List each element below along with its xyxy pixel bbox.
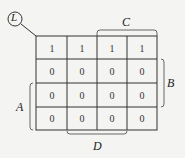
label-d: D xyxy=(93,139,102,154)
cell: 0 xyxy=(127,107,157,130)
corner-label: L xyxy=(11,11,17,23)
cell: 1 xyxy=(97,37,127,60)
cell: 0 xyxy=(67,107,97,130)
cell: 0 xyxy=(97,60,127,83)
cell: 0 xyxy=(37,84,67,107)
cell: 1 xyxy=(67,37,97,60)
cell: 0 xyxy=(127,84,157,107)
cell: 0 xyxy=(37,60,67,83)
cell: 1 xyxy=(127,37,157,60)
label-a: A xyxy=(16,100,23,115)
cell: 1 xyxy=(37,37,67,60)
cell: 0 xyxy=(67,60,97,83)
cell: 0 xyxy=(97,107,127,130)
cell: 0 xyxy=(67,84,97,107)
cell: 0 xyxy=(37,107,67,130)
label-c: C xyxy=(122,15,130,30)
label-b: B xyxy=(167,76,174,91)
cell: 0 xyxy=(97,84,127,107)
cell: 0 xyxy=(127,60,157,83)
